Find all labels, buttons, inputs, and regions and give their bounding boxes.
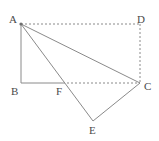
figure-canvas [0, 0, 159, 141]
vertex-marker-A [19, 22, 22, 25]
vertex-label-E: E [89, 125, 96, 136]
segment-AE [21, 24, 93, 121]
vertex-label-F: F [56, 86, 62, 97]
vertex-label-D: D [137, 14, 145, 25]
geometry-figure: A B C D E F [0, 0, 159, 141]
vertex-label-C: C [144, 81, 151, 92]
segment-AC [21, 24, 140, 83]
vertex-label-B: B [11, 86, 18, 97]
segment-EC [93, 83, 140, 121]
vertex-label-A: A [9, 14, 17, 25]
